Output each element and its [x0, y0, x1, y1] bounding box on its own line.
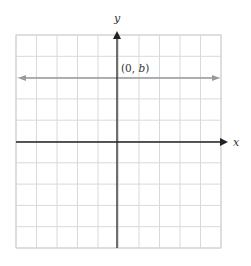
point-label-close: ) — [145, 62, 149, 74]
x-axis-label: x — [233, 136, 240, 149]
point-label-0-b: (0, b) — [121, 62, 149, 74]
coordinate-plane: y x (0, b) — [0, 0, 251, 266]
y-axis-label: y — [113, 12, 121, 25]
point-label-open: (0, — [121, 62, 138, 74]
